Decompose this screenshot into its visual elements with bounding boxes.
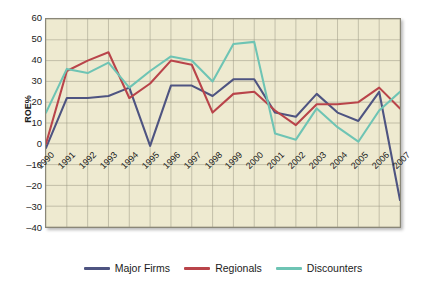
x-tick-label: 2004	[328, 150, 349, 171]
x-tick-label: 1997	[182, 150, 203, 171]
x-tick-label: 1990	[35, 150, 56, 171]
x-tick-label: 2006	[370, 150, 391, 171]
legend-color-swatch	[84, 267, 110, 270]
x-tick-label: 1994	[119, 150, 140, 171]
legend-color-swatch	[184, 267, 210, 270]
x-axis-tick-labels: 1990199119921993199419951996199719981999…	[0, 0, 438, 289]
x-tick-label: 2000	[244, 150, 265, 171]
x-tick-label: 1996	[161, 150, 182, 171]
chart-legend: Major FirmsRegionalsDiscounters	[45, 262, 401, 274]
x-tick-label: 1991	[56, 150, 77, 171]
x-tick-label: 2005	[349, 150, 370, 171]
x-tick-label: 2007	[391, 150, 412, 171]
chart-container: ROE% 6050403020100–10–20–30–40 199019911…	[0, 0, 438, 289]
legend-label: Major Firms	[115, 262, 170, 274]
x-tick-label: 1992	[77, 150, 98, 171]
x-tick-label: 1995	[140, 150, 161, 171]
x-tick-label: 1998	[202, 150, 223, 171]
x-tick-label: 1999	[223, 150, 244, 171]
legend-label: Discounters	[307, 262, 362, 274]
legend-label: Regionals	[215, 262, 262, 274]
legend-item[interactable]: Major Firms	[84, 262, 170, 274]
x-tick-label: 2001	[265, 150, 286, 171]
x-tick-label: 2002	[286, 150, 307, 171]
x-tick-label: 2003	[307, 150, 328, 171]
x-tick-label: 1993	[98, 150, 119, 171]
legend-item[interactable]: Regionals	[184, 262, 262, 274]
legend-color-swatch	[276, 267, 302, 270]
legend-item[interactable]: Discounters	[276, 262, 362, 274]
